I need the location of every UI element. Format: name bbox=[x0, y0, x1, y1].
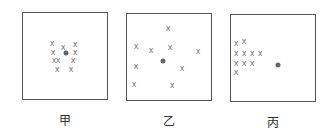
shot-mark-icon: x bbox=[168, 44, 173, 52]
target-center-dot-icon bbox=[276, 63, 281, 68]
shot-mark-icon: x bbox=[69, 66, 74, 74]
shot-mark-icon: x bbox=[149, 47, 154, 55]
target-panel-1 bbox=[22, 12, 108, 100]
shot-mark-icon: x bbox=[250, 60, 255, 68]
shot-mark-icon: x bbox=[242, 50, 247, 58]
shot-mark-icon: x bbox=[242, 38, 247, 46]
shot-mark-icon: x bbox=[234, 50, 239, 58]
shot-mark-icon: x bbox=[234, 60, 239, 68]
target-center-dot-icon bbox=[161, 59, 166, 64]
shot-mark-icon: x bbox=[55, 66, 60, 74]
shot-mark-icon: x bbox=[170, 82, 175, 90]
target-center-dot-icon bbox=[64, 51, 69, 56]
shot-mark-icon: x bbox=[234, 40, 239, 48]
shot-mark-icon: x bbox=[166, 25, 171, 33]
shot-mark-icon: x bbox=[196, 48, 201, 56]
shot-mark-icon: x bbox=[250, 50, 255, 58]
shot-mark-icon: x bbox=[258, 50, 263, 58]
shot-mark-icon: x bbox=[134, 43, 139, 51]
shot-mark-icon: x bbox=[50, 40, 55, 48]
target-panel-3 bbox=[230, 14, 316, 102]
shot-mark-icon: x bbox=[234, 69, 239, 77]
shot-mark-icon: x bbox=[180, 65, 185, 73]
shot-mark-icon: x bbox=[242, 60, 247, 68]
panel-label: 乙 bbox=[163, 112, 175, 129]
shot-mark-icon: x bbox=[132, 81, 137, 89]
panel-label: 丙 bbox=[267, 113, 279, 130]
shot-mark-icon: x bbox=[71, 57, 76, 65]
shot-mark-icon: x bbox=[134, 63, 139, 71]
shot-mark-icon: x bbox=[56, 57, 61, 65]
panel-label: 甲 bbox=[59, 111, 71, 128]
